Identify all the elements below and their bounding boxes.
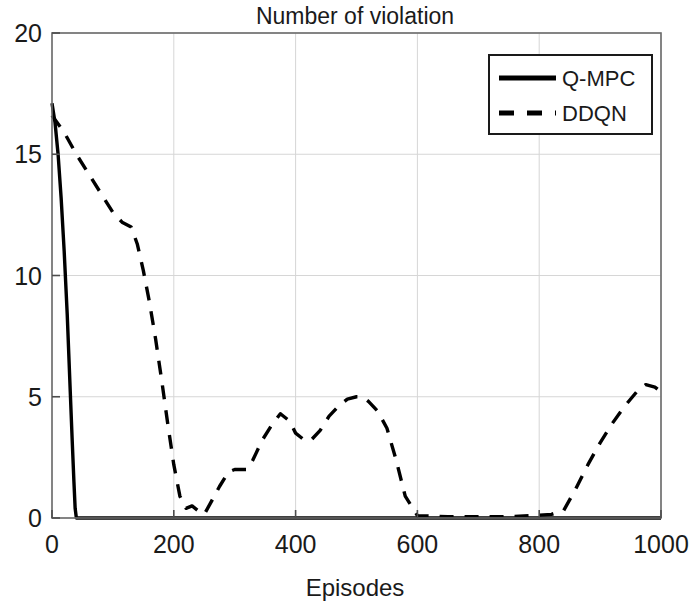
x-axis-label: Episodes: [306, 574, 405, 601]
x-tick-label-400: 400: [275, 530, 317, 558]
legend-label-q-mpc: Q-MPC: [562, 66, 635, 91]
y-tick-label-20: 20: [14, 19, 42, 47]
legend-label-ddqn: DDQN: [562, 101, 627, 126]
y-tick-label-10: 10: [14, 262, 42, 290]
x-tick-label-600: 600: [397, 530, 439, 558]
x-tick-label-200: 200: [153, 530, 195, 558]
chart-figure: 05101520 02004006008001000 Number of vio…: [0, 0, 695, 613]
y-tick-label-15: 15: [14, 140, 42, 168]
x-tick-label-1000: 1000: [633, 530, 689, 558]
x-tick-label-800: 800: [518, 530, 560, 558]
violation-line-chart: 05101520 02004006008001000 Number of vio…: [0, 0, 695, 613]
chart-title: Number of violation: [256, 3, 454, 29]
x-tick-label-0: 0: [45, 530, 59, 558]
chart-legend[interactable]: Q-MPC DDQN: [489, 55, 652, 134]
y-tick-label-5: 5: [28, 383, 42, 411]
y-tick-label-0: 0: [28, 504, 42, 532]
